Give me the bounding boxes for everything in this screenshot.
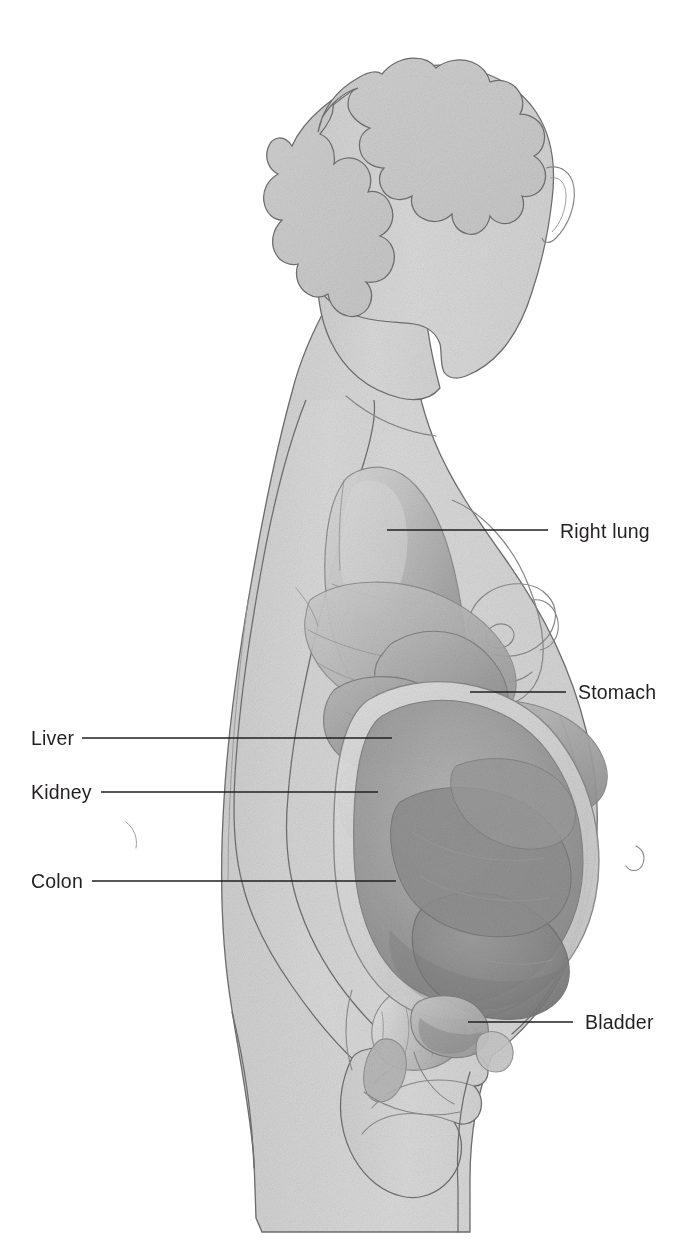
label-kidney: Kidney bbox=[31, 781, 92, 803]
pubic-symphysis bbox=[476, 1032, 513, 1072]
label-colon: Colon bbox=[31, 870, 83, 892]
label-liver: Liver bbox=[31, 727, 75, 749]
label-right-lung: Right lung bbox=[560, 520, 650, 542]
label-bladder: Bladder bbox=[585, 1011, 654, 1033]
anatomical-figure: Right lung Stomach Liver Kidney Colon Bl… bbox=[0, 0, 698, 1260]
belly-navel bbox=[626, 846, 644, 871]
elbow-crease bbox=[126, 822, 137, 848]
illustration-canvas: Right lung Stomach Liver Kidney Colon Bl… bbox=[0, 0, 698, 1260]
label-stomach: Stomach bbox=[578, 681, 656, 703]
